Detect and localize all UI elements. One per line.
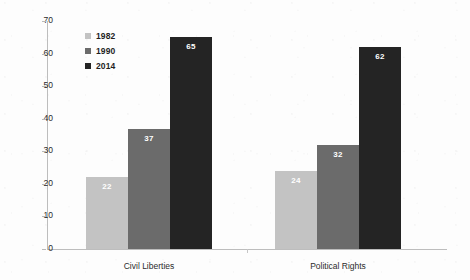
y-axis-tick-label: 30 <box>17 145 53 157</box>
bar: 32 <box>317 145 359 249</box>
y-axis-tick-mark <box>42 216 46 217</box>
bar: 65 <box>170 37 212 249</box>
y-axis-tick-mark <box>42 249 46 250</box>
bar-value-label: 22 <box>86 182 128 191</box>
y-axis-tick-label: 40 <box>17 113 53 125</box>
bar: 22 <box>86 177 128 249</box>
bar-value-label: 24 <box>275 176 317 185</box>
legend-item-label: 1982 <box>96 31 115 41</box>
legend-item-label: 2014 <box>96 61 115 71</box>
bar: 62 <box>359 47 401 249</box>
bar-value-label: 62 <box>359 52 401 61</box>
y-axis-tick-label: 50 <box>17 80 53 92</box>
legend-swatch-icon <box>85 63 91 69</box>
y-axis-tick-label: 0 <box>17 243 53 255</box>
legend-item-label: 1990 <box>96 46 115 56</box>
bar-value-label: 65 <box>170 42 212 51</box>
y-axis-tick-mark <box>42 184 46 185</box>
x-axis-category-label: Political Rights <box>275 261 401 271</box>
y-axis-tick-label: 60 <box>17 48 53 60</box>
y-axis-tick-label: 70 <box>17 15 53 27</box>
y-axis-tick-mark <box>42 151 46 152</box>
legend: 198219902014 <box>85 28 115 73</box>
bar: 37 <box>128 129 170 250</box>
x-axis-category-label: Civil Liberties <box>86 261 212 271</box>
legend-item[interactable]: 1990 <box>85 43 115 58</box>
y-axis-tick-mark <box>42 54 46 55</box>
legend-swatch-icon <box>85 48 91 54</box>
y-axis-tick-label: 20 <box>17 178 53 190</box>
bar-value-label: 32 <box>317 150 359 159</box>
legend-swatch-icon <box>85 33 91 39</box>
y-axis-tick-label: 10 <box>17 210 53 222</box>
y-axis-tick-mark <box>42 21 46 22</box>
y-axis-tick-mark <box>42 86 46 87</box>
legend-item[interactable]: 2014 <box>85 58 115 73</box>
bar-value-label: 37 <box>128 134 170 143</box>
legend-item[interactable]: 1982 <box>85 28 115 43</box>
x-axis-category-divider <box>247 249 248 253</box>
y-axis-tick-mark <box>42 119 46 120</box>
bar-chart: Number of Countries 010203040506070 2237… <box>0 0 470 280</box>
bar: 24 <box>275 171 317 249</box>
